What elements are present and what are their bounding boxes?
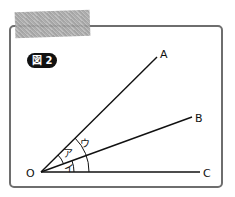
angle-diagram: O A B C ア イ ウ xyxy=(0,0,235,197)
angle-label-i: イ xyxy=(64,163,74,174)
label-a: A xyxy=(160,48,168,61)
angle-label-u: ウ xyxy=(80,138,90,149)
angle-label-a: ア xyxy=(63,148,73,159)
label-c: C xyxy=(203,167,211,180)
label-b: B xyxy=(195,112,203,125)
label-o: O xyxy=(26,167,35,180)
